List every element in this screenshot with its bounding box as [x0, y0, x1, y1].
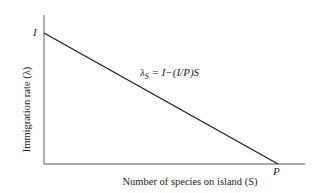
immigration-line	[44, 33, 278, 164]
y-intercept-label: I	[33, 26, 37, 38]
equation-label: λS = I−(I/P)S	[140, 66, 199, 81]
y-axis-label: Immigration rate (λ)	[21, 50, 32, 170]
x-axis-label: Number of species on island (S)	[90, 176, 290, 187]
